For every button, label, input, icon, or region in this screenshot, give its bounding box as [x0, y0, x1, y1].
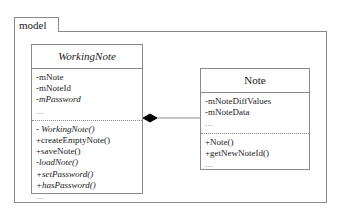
attribute-item: -mNoteId [36, 83, 142, 94]
operations-compartment-note: +Note() +getNewNoteId() ... [201, 133, 309, 174]
attributes-ellipsis: ... [36, 106, 142, 117]
class-name-note: Note [201, 69, 309, 93]
operation-item: -loadNote() [36, 157, 142, 168]
operation-item: +hasPassword() [36, 180, 142, 191]
class-box-workingnote[interactable]: WorkingNote -mNote -mNoteId -mPassword .… [31, 44, 143, 194]
operation-item: +setPassword() [36, 169, 142, 180]
attribute-item: -mNoteData [205, 107, 309, 118]
operations-compartment-workingnote: - WorkingNote() +createEmptyNote() +save… [32, 120, 142, 205]
attribute-item: -mNote [36, 72, 142, 83]
operations-ellipsis: ... [36, 191, 142, 202]
operation-item: +Note() [205, 137, 309, 148]
operations-ellipsis: ... [205, 159, 309, 170]
operation-item: +createEmptyNote() [36, 135, 142, 146]
package-tab: model [14, 17, 59, 32]
uml-diagram-canvas: model WorkingNote -mNote -mNoteId -mPass… [0, 0, 338, 217]
operation-item: +getNewNoteId() [205, 148, 309, 159]
attributes-ellipsis: ... [205, 118, 309, 129]
class-name-workingnote: WorkingNote [32, 45, 142, 69]
attributes-compartment-note: -mNoteDiffValues -mNoteData ... [201, 93, 309, 133]
attribute-item: -mPassword [36, 94, 142, 105]
attributes-compartment-workingnote: -mNote -mNoteId -mPassword ... [32, 69, 142, 120]
package-name-label: model [19, 19, 47, 32]
operation-item: +saveNote() [36, 146, 142, 157]
class-box-note[interactable]: Note -mNoteDiffValues -mNoteData ... +No… [200, 68, 310, 170]
attribute-item: -mNoteDiffValues [205, 96, 309, 107]
operation-item: - WorkingNote() [36, 124, 142, 135]
